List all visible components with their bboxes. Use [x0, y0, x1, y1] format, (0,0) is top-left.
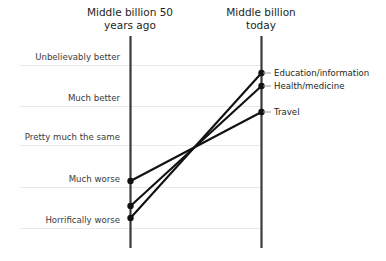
scale-label-much-worse: Much worse — [0, 174, 120, 184]
right-column-title: Middle billion today — [205, 6, 317, 31]
point-travel-start — [127, 178, 133, 184]
scale-label-pretty-much-the-same: Pretty much the same — [0, 132, 120, 142]
series-label-education-information: Education/information — [274, 68, 369, 78]
point-health-medicine-start — [127, 203, 133, 209]
gridlines — [20, 66, 261, 229]
left-column-title: Middle billion 50 years ago — [70, 6, 190, 31]
series-label-health-medicine: Health/medicine — [274, 81, 344, 91]
slope-chart: Middle billion 50 years ago Middle billi… — [0, 0, 386, 261]
series-label-travel: Travel — [274, 107, 300, 117]
scale-label-horrifically-worse: Horrifically worse — [0, 215, 120, 225]
scale-label-unbelievably-better: Unbelievably better — [0, 52, 120, 62]
point-education-information-start — [127, 215, 133, 221]
slope-line-travel — [131, 112, 262, 181]
scale-label-much-better: Much better — [0, 93, 120, 103]
label-connectors — [263, 73, 271, 112]
